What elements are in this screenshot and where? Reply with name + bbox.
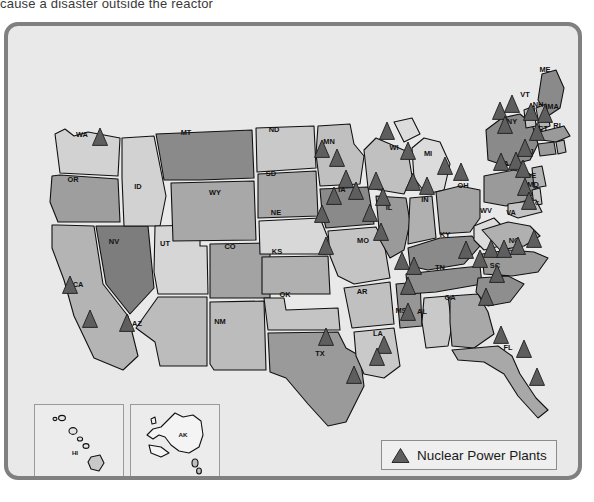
state-label-in: IN (421, 195, 428, 204)
state-label-mi: MI (424, 149, 432, 158)
nuclear-plant-marker (530, 368, 545, 385)
state-label-oh: OH (457, 181, 468, 190)
map-container: WAORCANVIDUTAZMTWYCONMNDSDNEKSOKTXMNIAMO… (4, 22, 582, 480)
nuclear-plant-marker (494, 326, 509, 343)
state-label-la: LA (373, 329, 384, 338)
nuclear-plant-marker (380, 122, 395, 139)
state-label-mo: MO (357, 236, 369, 245)
state-label-az: AZ (132, 319, 142, 328)
state-label-mt: MT (181, 128, 192, 137)
state-label-ks: KS (272, 247, 282, 256)
state-label-mn: MN (323, 137, 335, 146)
state-label-wa: WA (76, 130, 89, 139)
triangle-icon (391, 447, 410, 464)
state-label-nh: NH (533, 100, 544, 109)
hawaii-inset: HI (34, 404, 124, 478)
nuclear-plant-marker (505, 95, 520, 112)
state-label-co: CO (224, 242, 235, 251)
state-label-tx: TX (315, 349, 325, 358)
state-label-ok: OK (279, 290, 291, 299)
map-legend: Nuclear Power Plants (381, 440, 557, 470)
state-label-ut: UT (160, 239, 170, 248)
state-label-id: ID (134, 182, 142, 191)
state-label-sd: SD (266, 169, 277, 178)
state-label-nv: NV (109, 237, 119, 246)
state-label-ne: NE (271, 208, 281, 217)
nuclear-plant-marker (517, 340, 532, 357)
state-label-wi: WI (389, 143, 398, 152)
state-label-ma: MA (547, 102, 559, 111)
state-label-or: OR (67, 175, 79, 184)
alaska-svg: AK (131, 405, 219, 477)
page-caption: cause a disaster outside the reactor (0, 0, 594, 12)
state-label-wv: WV (480, 206, 492, 215)
state-label-wy: WY (209, 188, 221, 197)
state-label-va: VA (506, 208, 516, 217)
state-label-ga: GA (444, 293, 456, 302)
state-label-ky: KY (440, 230, 450, 239)
legend-label: Nuclear Power Plants (417, 448, 547, 463)
nuclear-plant-marker (454, 163, 469, 180)
state-label-al: AL (417, 307, 427, 316)
state-label-ri: RI (553, 121, 560, 130)
state-label-nd: ND (269, 125, 280, 134)
hawaii-svg: HI (35, 405, 123, 477)
state-label-ar: AR (357, 287, 368, 296)
state-label-me: ME (539, 65, 550, 74)
state-label-nm: NM (214, 317, 226, 326)
alaska-inset: AK (130, 404, 220, 478)
inset-label-ak: AK (179, 431, 188, 438)
inset-label-hi: HI (72, 449, 78, 456)
state-label-fl: FL (503, 343, 513, 352)
state-label-vt: VT (520, 90, 530, 99)
state-label-tn: TN (435, 263, 445, 272)
